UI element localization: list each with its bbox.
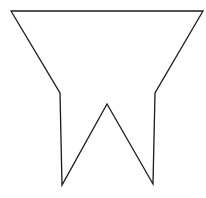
figure-canvas	[0, 0, 206, 198]
